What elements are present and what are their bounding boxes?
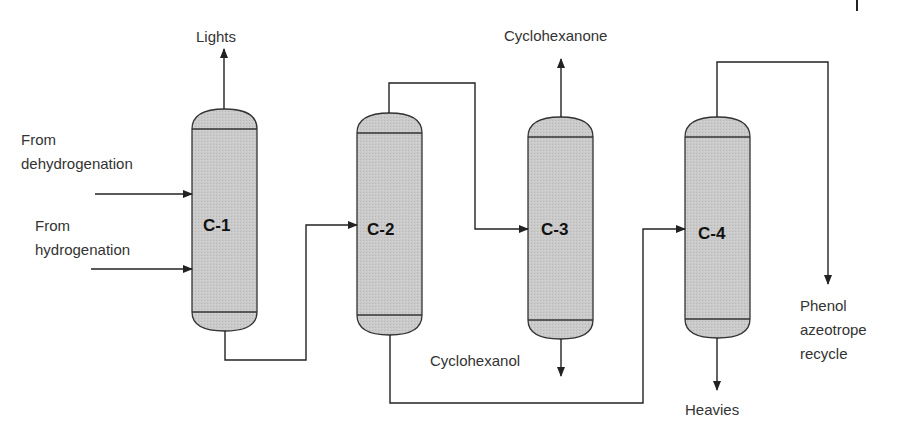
label-hydrogenation: hydrogenation [35, 241, 130, 258]
label-lights: Lights [196, 28, 236, 45]
column-c4-label: C-4 [698, 224, 726, 243]
label-recycle: recycle [800, 345, 848, 362]
label-from-2: From [35, 217, 70, 234]
label-heavies: Heavies [685, 401, 739, 418]
label-dehydrogenation: dehydrogenation [21, 155, 133, 172]
label-cyclohexanol: Cyclohexanol [430, 352, 520, 369]
label-phenol: Phenol [800, 297, 847, 314]
process-flow-diagram: C-1 C-2 C-3 C-4 Lights From dehydrogenat… [0, 0, 905, 434]
column-c2-label: C-2 [367, 220, 394, 239]
column-c3-label: C-3 [541, 220, 568, 239]
label-azeotrope: azeotrope [800, 321, 867, 338]
label-cyclohexanone: Cyclohexanone [504, 27, 607, 44]
label-from-1: From [21, 131, 56, 148]
column-c1-label: C-1 [203, 216, 230, 235]
